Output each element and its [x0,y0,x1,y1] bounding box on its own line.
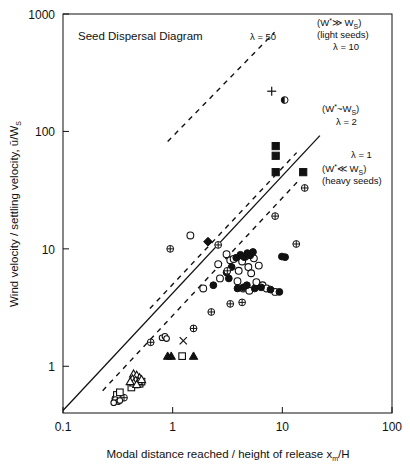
x-tick-label: 1 [169,420,176,434]
x-tick-label: 10 [276,420,290,434]
axis-ticks: 0.11101001101001000 [28,8,402,434]
annotation-mid-regime: (W*~WS) [322,103,359,116]
data-markers [111,87,308,406]
seed-dispersal-figure: 0.11101001101001000 Seed Dispersal Diagr… [0,0,410,474]
chart-title: Seed Dispersal Diagram [78,30,203,42]
y-tick-label: 10 [42,243,56,257]
reference-line-1 [63,136,320,411]
annotation-lambda-50: λ = 50 [250,31,276,42]
annotation-heavy-seeds: (heavy seeds) [322,175,382,186]
y-axis-label: Wind velocity / settling velocity, ū/WS [8,121,22,307]
annotation-light-regime: (W*≫ WS) [317,17,361,30]
x-tick-label: 0.1 [55,420,72,434]
series-half-filled-circle [281,97,288,104]
y-tick-label: 100 [35,125,55,139]
y-tick-label: 1000 [28,8,55,22]
annotation-heavy-regime: (W*≪ WS) [322,163,366,176]
y-tick-label: 1 [48,360,55,374]
series-filled-diamond [204,237,213,246]
x-axis-label: Modal distance reached / height of relea… [106,448,349,462]
annotation-lambda-10: λ = 10 [333,41,359,52]
series-filled-square [272,142,307,175]
reference-lines [63,32,320,410]
annotation-lambda-1: λ = 1 [351,149,372,160]
reference-line-50 [168,32,275,141]
scatter-plot: 0.11101001101001000 Seed Dispersal Diagr… [0,0,410,474]
plot-frame [63,14,392,413]
series-open-triangle [126,370,145,387]
annotation-light-seeds: (light seeds) [317,29,369,40]
x-tick-label: 100 [382,420,402,434]
series-plus [267,87,276,96]
series-cross-x [180,337,187,344]
annotation-lambda-2: λ = 2 [336,116,357,127]
